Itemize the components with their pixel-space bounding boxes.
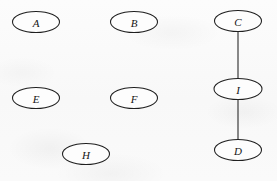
node-i[interactable]: I (214, 79, 262, 100)
node-e-label: E (32, 93, 40, 105)
node-c[interactable]: C (215, 11, 262, 32)
node-d-label: D (233, 145, 242, 157)
graph-svg: A B C E F I (0, 0, 277, 181)
node-f-label: F (130, 93, 138, 105)
node-c-label: C (234, 16, 242, 28)
node-b-label: B (131, 17, 138, 29)
diagram-canvas: A B C E F I (0, 0, 277, 181)
node-h[interactable]: H (63, 144, 110, 165)
node-e[interactable]: E (13, 88, 60, 109)
node-h-label: H (81, 149, 91, 161)
node-a-label: A (32, 17, 40, 29)
node-a[interactable]: A (13, 12, 60, 33)
node-f[interactable]: F (111, 88, 158, 109)
node-b[interactable]: B (111, 12, 158, 33)
node-layer: A B C E F I (13, 11, 263, 165)
node-d[interactable]: D (215, 140, 262, 161)
